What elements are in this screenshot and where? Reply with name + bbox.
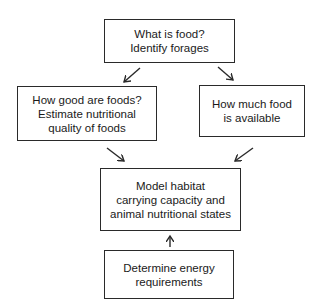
node-text-line: requirements — [135, 275, 202, 289]
node-text-line: Identify forages — [130, 41, 209, 55]
arrow-what-to-how-much — [218, 67, 233, 80]
node-text-line: What is food? — [134, 27, 204, 41]
node-model-habitat: Model habitat carrying capacity and anim… — [100, 168, 241, 231]
node-text-line: quality of foods — [48, 121, 125, 135]
arrow-what-to-how-good — [124, 68, 140, 82]
arrow-how-much-to-model — [235, 148, 253, 161]
node-text-line: carrying capacity and — [116, 193, 225, 207]
node-text-line: Model habitat — [136, 179, 205, 193]
node-text-line: is available — [224, 111, 281, 125]
node-text-line: Determine energy — [123, 261, 214, 275]
node-text-line: Estimate nutritional — [38, 107, 136, 121]
node-how-much-food: How much food is available — [199, 85, 305, 137]
node-text-line: How good are foods? — [32, 93, 141, 107]
node-energy-requirements: Determine energy requirements — [104, 250, 234, 299]
node-how-good-are-foods: How good are foods? Estimate nutritional… — [17, 86, 157, 141]
arrow-how-good-to-model — [107, 148, 124, 161]
node-text-line: How much food — [212, 97, 292, 111]
node-what-is-food: What is food? Identify forages — [104, 19, 235, 63]
node-text-line: animal nutritional states — [110, 207, 231, 221]
